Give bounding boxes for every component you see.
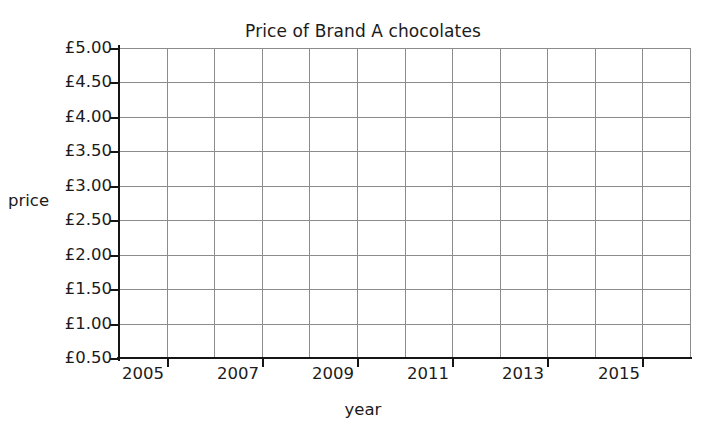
y-axis-tick-label: £0.50: [12, 350, 112, 367]
x-axis-tick-label: 2011: [388, 366, 468, 383]
gridline-vertical: [500, 48, 501, 358]
gridline-vertical: [547, 48, 548, 358]
gridline-vertical: [262, 48, 263, 358]
gridline-vertical: [309, 48, 310, 358]
gridline-vertical: [690, 48, 691, 358]
x-axis-tick-label: 2005: [103, 366, 183, 383]
gridline-vertical: [167, 48, 168, 358]
y-axis-tick-label: £2.00: [12, 247, 112, 264]
gridline-vertical: [642, 48, 643, 358]
y-axis-tick-label: £3.00: [12, 178, 112, 195]
y-axis-tick-label: £1.00: [12, 316, 112, 333]
y-axis-tick-label: £5.00: [12, 40, 112, 57]
x-axis-tick-label: 2007: [198, 366, 278, 383]
y-axis-tick-labels: £5.00£4.50£4.00£3.50£3.00£2.50£2.00£1.50…: [0, 0, 112, 437]
gridline-vertical: [595, 48, 596, 358]
x-axis-line: [117, 357, 692, 359]
x-axis-tick-label: 2013: [483, 366, 563, 383]
plot-area: [119, 48, 690, 358]
y-axis-tick-label: £4.00: [12, 109, 112, 126]
y-axis-tick-label: £2.50: [12, 212, 112, 229]
x-axis-tick-label: 2009: [293, 366, 373, 383]
x-axis-tick-label: 2015: [579, 366, 659, 383]
price-of-brand-a-chocolates-chart: Price of Brand A chocolates price year £…: [0, 0, 726, 437]
gridline-vertical: [452, 48, 453, 358]
gridline-vertical: [357, 48, 358, 358]
y-axis-line: [118, 45, 120, 361]
y-axis-tick-label: £1.50: [12, 281, 112, 298]
gridline-vertical: [214, 48, 215, 358]
gridline-vertical: [405, 48, 406, 358]
y-axis-tick-label: £3.50: [12, 143, 112, 160]
y-axis-tick-label: £4.50: [12, 74, 112, 91]
